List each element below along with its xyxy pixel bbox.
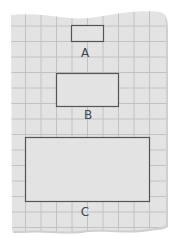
rectangle-a (72, 26, 104, 42)
rectangle-b (57, 74, 119, 107)
label-b: B (78, 109, 98, 121)
label-c: C (75, 206, 95, 218)
graph-paper-diagram: ABC (0, 0, 177, 237)
label-a: A (75, 47, 95, 59)
rectangle-c (26, 138, 150, 202)
